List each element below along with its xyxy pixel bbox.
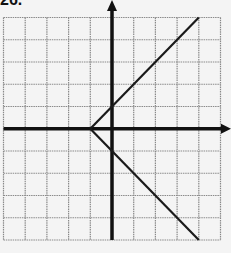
coordinate-graph [0, 0, 231, 253]
graph-lower-branch [90, 129, 199, 240]
x-axis-arrow-icon [221, 124, 231, 134]
y-axis-arrow-icon [107, 0, 117, 11]
graph-upper-branch [90, 18, 199, 129]
